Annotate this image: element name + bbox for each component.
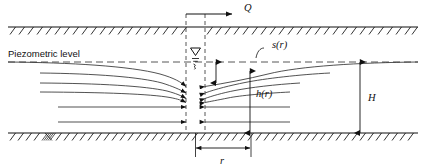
well-drawdown-diagram: Q s(r) [0, 0, 426, 168]
water-table-triangle-icon [191, 48, 201, 69]
piezometric-level-label: Piezometric level [8, 48, 80, 59]
radius-label: r [220, 155, 225, 166]
discharge-label: Q [244, 2, 252, 13]
flow-lines-right [205, 62, 418, 122]
confining-layer-hatch-icon [10, 27, 418, 35]
drawdown-dimension [216, 48, 264, 83]
head-label: h(r) [256, 88, 273, 100]
diagram-canvas: Q s(r) [0, 0, 426, 168]
aquifer-thickness-label: H [367, 92, 377, 103]
well-casing [186, 14, 205, 133]
drawdown-label: s(r) [272, 39, 288, 51]
bedrock-hatch-icon [10, 133, 414, 141]
flow-lines-left [8, 62, 186, 122]
